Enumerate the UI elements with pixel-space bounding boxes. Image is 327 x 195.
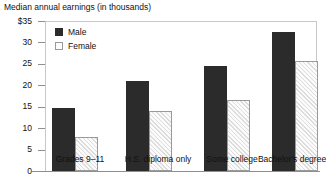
y-axis-tick-mark: [38, 171, 45, 172]
y-axis-tick-mark: [38, 128, 45, 129]
bar-pair: [52, 21, 98, 171]
y-axis-tick-label: $35: [2, 17, 32, 26]
bar-chart: Median annual earnings (in thousands) 05…: [0, 0, 327, 195]
y-axis-tick-label: 25: [2, 59, 32, 68]
y-axis-tick-mark: [38, 42, 45, 43]
y-axis-tick-mark: [38, 107, 45, 108]
x-axis-category-label: Bachelor's degree: [232, 154, 327, 164]
bar-male: [272, 32, 295, 171]
bar-pair: [272, 21, 318, 171]
bar-pair: [204, 21, 250, 171]
y-axis-tick-label: 5: [2, 145, 32, 154]
y-axis-tick-label: 10: [2, 124, 32, 133]
y-axis-tick-label: 30: [2, 38, 32, 47]
y-axis-tick-label: 15: [2, 102, 32, 111]
y-axis-tick-mark: [38, 64, 45, 65]
y-axis-tick-label: 20: [2, 81, 32, 90]
bar-pair: [126, 21, 172, 171]
y-axis-tick-mark: [38, 21, 45, 22]
y-axis-tick-label: 0: [2, 167, 32, 176]
y-axis-tick-mark: [38, 150, 45, 151]
x-axis-baseline: [32, 171, 320, 172]
chart-title: Median annual earnings (in thousands): [4, 2, 151, 13]
y-axis-tick-mark: [38, 85, 45, 86]
